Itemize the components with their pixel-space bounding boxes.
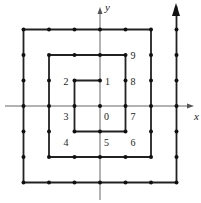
lattice-dot (47, 181, 51, 185)
point-label-3: 3 (64, 111, 69, 122)
lattice-dot (175, 155, 179, 159)
lattice-dot (73, 28, 77, 32)
lattice-dot (47, 53, 51, 57)
lattice-dot (149, 79, 153, 83)
lattice-dot (98, 130, 102, 134)
lattice-dot (22, 104, 26, 108)
lattice-dot (73, 181, 77, 185)
lattice-dot (22, 79, 26, 83)
lattice-dot (149, 130, 153, 134)
lattice-dot (124, 130, 128, 134)
lattice-dot (73, 130, 77, 134)
lattice-dot (98, 53, 102, 57)
lattice-dot (175, 181, 179, 185)
lattice-dot (124, 104, 128, 108)
lattice-dot (175, 53, 179, 57)
lattice-dot (175, 104, 179, 108)
lattice-dot (124, 28, 128, 32)
point-label-8: 8 (131, 76, 136, 87)
lattice-dot (175, 130, 179, 134)
y-axis-label: y (104, 1, 110, 13)
point-label-9: 9 (131, 50, 136, 61)
lattice-dot (98, 79, 102, 83)
lattice-dot (149, 28, 153, 32)
lattice-dot (73, 79, 77, 83)
lattice-dot (47, 155, 51, 159)
lattice-dot (22, 53, 26, 57)
y-axis (98, 7, 103, 200)
point-label-0: 0 (104, 111, 109, 122)
lattice-dot (73, 104, 77, 108)
lattice-dot (22, 130, 26, 134)
spiral-diagram: y x 0123456789 (0, 0, 201, 203)
lattice-dot (22, 28, 26, 32)
lattice-dot (98, 181, 102, 185)
lattice-dot (98, 104, 102, 108)
lattice-dot (22, 155, 26, 159)
point-label-4: 4 (64, 137, 69, 148)
arrow-up-icon (172, 3, 180, 16)
lattice-dot (175, 79, 179, 83)
lattice-dot (47, 130, 51, 134)
x-axis-label: x (193, 110, 199, 122)
lattice-dot (124, 155, 128, 159)
lattice-dot (175, 28, 179, 32)
point-label-2: 2 (64, 76, 69, 87)
lattice-dot (124, 53, 128, 57)
lattice-dot (124, 181, 128, 185)
lattice-dot (73, 53, 77, 57)
lattice-dot (22, 181, 26, 185)
lattice-dot (47, 104, 51, 108)
lattice-dot (47, 28, 51, 32)
lattice-dot (98, 155, 102, 159)
lattice-dot (149, 155, 153, 159)
lattice-dot (47, 79, 51, 83)
point-label-7: 7 (131, 111, 136, 122)
lattice-dot (149, 104, 153, 108)
spiral-figure: y x 0123456789 (0, 0, 201, 203)
lattice-dot (149, 53, 153, 57)
lattice-dot (73, 155, 77, 159)
lattice-dot (98, 28, 102, 32)
lattice-dot (124, 79, 128, 83)
point-label-5: 5 (104, 137, 109, 148)
lattice-dot (149, 181, 153, 185)
point-label-1: 1 (105, 76, 110, 87)
point-label-6: 6 (131, 137, 136, 148)
